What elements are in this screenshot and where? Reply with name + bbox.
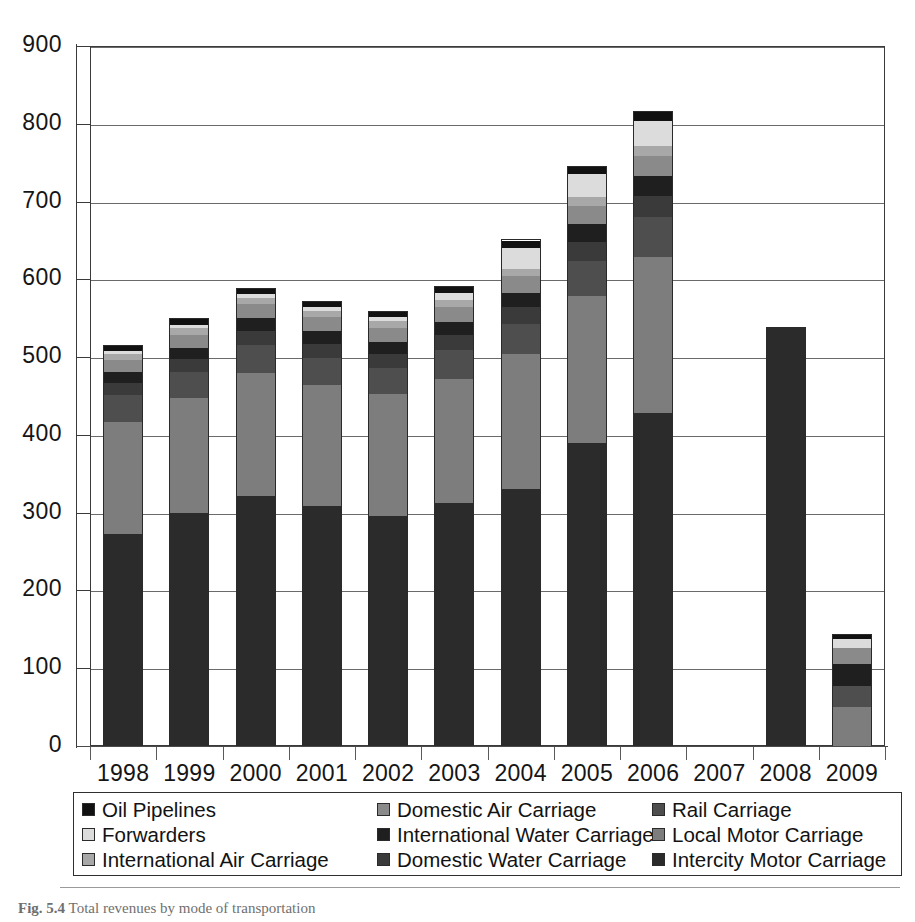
bar-segment[interactable] [568, 242, 606, 261]
stacked-bar[interactable] [303, 302, 341, 746]
bar-segment[interactable] [634, 196, 672, 217]
bar-segment[interactable] [502, 489, 540, 746]
stacked-bar[interactable] [435, 287, 473, 746]
x-axis-tick-mark [90, 747, 91, 760]
bar-segment[interactable] [369, 368, 407, 394]
bar-segment[interactable] [502, 324, 540, 354]
bar-segment[interactable] [568, 197, 606, 206]
bar-segment[interactable] [833, 707, 871, 746]
bar-segment[interactable] [435, 300, 473, 307]
bar-series-group [90, 46, 885, 746]
x-axis-tick-label: 2006 [620, 760, 686, 787]
bar-segment[interactable] [502, 293, 540, 308]
bar-segment[interactable] [435, 379, 473, 503]
bar-segment[interactable] [833, 664, 871, 686]
bar-segment[interactable] [634, 156, 672, 175]
legend-item[interactable]: Rail Carriage [652, 798, 895, 822]
legend-item-label: Domestic Water Carriage [397, 848, 626, 872]
legend-item[interactable]: International Air Carriage [82, 848, 377, 872]
bar-segment[interactable] [237, 496, 275, 746]
bar-segment[interactable] [502, 354, 540, 489]
bar-segment[interactable] [303, 385, 341, 506]
bar-segment[interactable] [833, 648, 871, 664]
stacked-bar[interactable] [237, 289, 275, 746]
bar-segment[interactable] [568, 174, 606, 197]
bar-segment[interactable] [104, 360, 142, 372]
legend-item[interactable]: Forwarders [82, 823, 377, 847]
bar-segment[interactable] [237, 373, 275, 496]
bar-segment[interactable] [502, 241, 540, 248]
bar-segment[interactable] [369, 342, 407, 354]
bar-segment[interactable] [502, 276, 540, 292]
legend-item[interactable]: Intercity Motor Carriage [652, 848, 895, 872]
stacked-bar[interactable] [502, 240, 540, 746]
stacked-bar[interactable] [369, 312, 407, 746]
x-axis-line [76, 746, 888, 747]
bar-segment[interactable] [634, 217, 672, 257]
bar-segment[interactable] [435, 322, 473, 335]
stacked-bar[interactable] [634, 112, 672, 746]
bar-segment[interactable] [833, 639, 871, 648]
bar-segment[interactable] [369, 516, 407, 746]
bar-segment[interactable] [435, 293, 473, 300]
bar-segment[interactable] [568, 224, 606, 242]
bar-segment[interactable] [104, 422, 142, 535]
bar-segment[interactable] [237, 331, 275, 346]
legend-item[interactable]: International Water Carriage [377, 823, 652, 847]
bar-segment[interactable] [170, 398, 208, 513]
bar-segment[interactable] [502, 248, 540, 269]
stacked-bar[interactable] [833, 635, 871, 746]
bar-segment[interactable] [568, 296, 606, 442]
bar-segment[interactable] [237, 304, 275, 318]
bar-segment[interactable] [634, 257, 672, 413]
bar-segment[interactable] [634, 112, 672, 121]
bar-segment[interactable] [634, 121, 672, 146]
bar-segment[interactable] [303, 344, 341, 358]
bar-segment[interactable] [303, 317, 341, 331]
bar-segment[interactable] [767, 328, 805, 746]
bar-segment[interactable] [833, 686, 871, 707]
legend-item[interactable]: Domestic Water Carriage [377, 848, 652, 872]
bar-segment[interactable] [568, 206, 606, 224]
bar-segment[interactable] [634, 413, 672, 746]
bar-segment[interactable] [435, 503, 473, 746]
bar-segment[interactable] [170, 335, 208, 348]
bar-segment[interactable] [104, 372, 142, 383]
bar-segment[interactable] [170, 513, 208, 746]
bar-segment[interactable] [104, 395, 142, 421]
stacked-bar[interactable] [170, 319, 208, 746]
stacked-bar[interactable] [568, 167, 606, 746]
bar-segment[interactable] [435, 350, 473, 379]
y-axis-tick-label: 700 [0, 187, 62, 214]
bar-segment[interactable] [568, 261, 606, 297]
bar-segment[interactable] [104, 534, 142, 746]
bar-segment[interactable] [303, 358, 341, 385]
bar-segment[interactable] [502, 307, 540, 323]
bar-segment[interactable] [502, 269, 540, 277]
bar-segment[interactable] [237, 345, 275, 372]
x-axis-tick-label: 2005 [554, 760, 620, 787]
bar-segment[interactable] [237, 318, 275, 330]
bar-segment[interactable] [435, 307, 473, 322]
legend-item[interactable]: Domestic Air Carriage [377, 798, 652, 822]
stacked-bar[interactable] [104, 346, 142, 746]
bar-segment[interactable] [435, 335, 473, 350]
bar-segment[interactable] [303, 331, 341, 343]
bar-segment[interactable] [170, 372, 208, 398]
bar-segment[interactable] [369, 354, 407, 368]
stacked-bar[interactable] [767, 328, 805, 746]
legend-item[interactable]: Oil Pipelines [82, 798, 377, 822]
bar-segment[interactable] [369, 328, 407, 342]
bar-segment[interactable] [170, 348, 208, 359]
bar-segment[interactable] [104, 383, 142, 395]
legend-swatch-icon [82, 803, 95, 816]
bar-segment[interactable] [369, 394, 407, 515]
legend-item[interactable]: Local Motor Carriage [652, 823, 895, 847]
y-axis-tick-mark [76, 202, 90, 203]
bar-segment[interactable] [303, 506, 341, 746]
bar-segment[interactable] [634, 176, 672, 196]
bar-segment[interactable] [634, 146, 672, 157]
bar-segment[interactable] [568, 443, 606, 746]
bar-segment[interactable] [568, 167, 606, 175]
bar-segment[interactable] [170, 359, 208, 372]
